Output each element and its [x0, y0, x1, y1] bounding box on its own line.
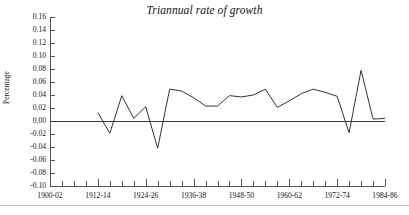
- footer-divider: [0, 205, 409, 206]
- data-line-series-0: [98, 70, 385, 148]
- data-series-group: [98, 70, 385, 148]
- chart-figure: Triannual rate of growth Percentage 0.16…: [0, 0, 409, 215]
- plot-area: [0, 0, 409, 215]
- axes-group: [50, 17, 386, 187]
